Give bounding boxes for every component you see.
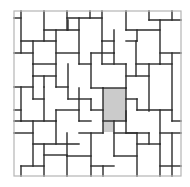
outer-frame xyxy=(14,11,181,176)
tile-lines xyxy=(14,11,181,176)
tile-pattern-diagram xyxy=(0,0,190,187)
